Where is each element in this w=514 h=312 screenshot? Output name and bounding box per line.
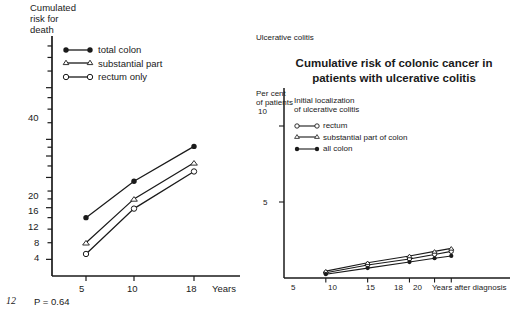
data-point-open-circle	[83, 251, 88, 256]
data-point-open-circle	[131, 206, 136, 211]
left-x-tick-5: 5	[79, 283, 84, 294]
filled-circle-line-icon	[62, 44, 94, 56]
right-x-tick-18: 18	[394, 283, 403, 292]
right-chart-panel: Ulcerative colitis Cumulative risk of co…	[252, 0, 514, 312]
legend-label: rectum	[323, 121, 347, 130]
open-triangle-line-icon	[294, 132, 320, 142]
right-x-tick-20: 20	[413, 283, 422, 292]
right-series-line	[326, 256, 451, 274]
right-x-tick-10: 10	[328, 283, 337, 292]
data-point-open-triangle	[449, 247, 454, 251]
data-point-open-triangle	[365, 261, 370, 265]
left-x-tick-18: 18	[186, 283, 197, 294]
legend-label: total colon	[98, 44, 141, 55]
legend-item-rectum-only: rectum only	[62, 70, 162, 84]
left-series-line	[86, 171, 194, 253]
open-triangle-line-icon	[62, 57, 94, 69]
legend-item-total-colon: total colon	[62, 43, 162, 57]
data-point-filled-circle	[324, 272, 328, 276]
data-point-open-triangle	[191, 161, 198, 166]
data-point-filled-circle	[83, 215, 88, 220]
data-point-filled-circle	[449, 254, 453, 258]
left-x-tick-10: 10	[127, 283, 138, 294]
open-circle-line-icon	[62, 71, 94, 83]
data-point-open-circle	[191, 169, 196, 174]
legend-label: substantial part of colon	[323, 133, 408, 142]
left-chart-panel: Cumulated risk for death 40 20 16 12 8 4…	[0, 0, 252, 312]
data-point-filled-circle	[432, 256, 436, 260]
right-legend-title: Initial localization of ulcerative colit…	[294, 96, 359, 115]
figure-container: Cumulated risk for death 40 20 16 12 8 4…	[0, 0, 514, 312]
open-circle-line-icon	[294, 121, 320, 131]
data-point-filled-circle	[191, 144, 196, 149]
legend-item-substantial-part-of-colon: substantial part of colon	[294, 132, 408, 144]
legend-item-substantial-part: substantial part	[62, 57, 162, 71]
right-legend: rectum substantial part of colon all col…	[294, 120, 408, 155]
right-x-tick-5: 5	[291, 283, 295, 292]
left-p-value: P = 0.64	[34, 296, 69, 307]
data-point-open-triangle	[407, 254, 412, 258]
right-x-tick-15: 15	[366, 283, 375, 292]
filled-circle-line-icon	[294, 144, 320, 154]
data-point-filled-circle	[407, 260, 411, 264]
legend-label: all colon	[323, 144, 352, 153]
page-number: 12	[6, 295, 16, 307]
legend-label: substantial part	[98, 58, 162, 69]
right-plot-area	[252, 0, 514, 312]
data-point-open-triangle	[432, 250, 437, 254]
right-x-axis-title: Years after diagnosis	[432, 283, 506, 292]
legend-item-all-colon: all colon	[294, 143, 408, 155]
left-series-line	[86, 163, 194, 243]
legend-label: rectum only	[98, 71, 147, 82]
left-x-axis-title: Years	[212, 283, 236, 294]
legend-item-rectum: rectum	[294, 120, 408, 132]
left-legend: total colon substantial part rectum only	[62, 43, 162, 84]
data-point-filled-circle	[131, 179, 136, 184]
data-point-filled-circle	[366, 266, 370, 270]
